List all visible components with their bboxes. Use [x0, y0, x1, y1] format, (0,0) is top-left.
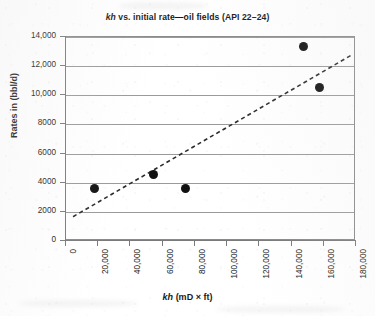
x-axis-tick-label: 180,000 — [359, 249, 368, 279]
x-axis-tick-label: 160,000 — [327, 249, 336, 279]
y-axis-tick-label: 12,000 — [31, 60, 56, 69]
data-point[interactable] — [315, 83, 324, 92]
y-axis-tick-label: 0 — [51, 235, 56, 244]
x-axis-tick-label: 140,000 — [295, 249, 304, 279]
chart-title-italic: kh — [106, 12, 116, 22]
x-axis-title-italic: kh — [163, 292, 174, 302]
y-axis-tick-label: 8000 — [38, 118, 56, 127]
chart-title-rest: vs. initial rate—oil fields (API 22–24) — [116, 12, 270, 22]
x-axis-tick-label: 100,000 — [230, 249, 239, 279]
data-point[interactable] — [90, 184, 99, 193]
y-axis-tick-label: 4000 — [38, 177, 56, 186]
y-axis-title: Rates in (bbl/d) — [9, 73, 19, 138]
x-axis-tick-label: 0 — [69, 249, 78, 254]
trendline — [0, 0, 375, 316]
x-axis-title-rest: (mD × ft) — [173, 292, 212, 302]
data-point[interactable] — [149, 170, 158, 179]
y-axis-tick-label: 2000 — [38, 206, 56, 215]
x-axis-tick-label: 80,000 — [198, 249, 207, 274]
x-axis-tick-label: 120,000 — [262, 249, 271, 279]
trendline-path — [73, 55, 352, 217]
x-axis-tick-label: 60,000 — [166, 249, 175, 274]
data-point[interactable] — [299, 42, 308, 51]
x-axis-title: kh (mD × ft) — [0, 292, 375, 302]
x-axis-tick-label: 20,000 — [101, 249, 110, 274]
y-axis-tick-label: 6000 — [38, 148, 56, 157]
chart-title: kh vs. initial rate—oil fields (API 22–2… — [0, 12, 375, 22]
y-axis-tick-label: 14,000 — [31, 31, 56, 40]
y-axis-tick-label: 10,000 — [31, 89, 56, 98]
x-axis-tick-label: 40,000 — [133, 249, 142, 274]
